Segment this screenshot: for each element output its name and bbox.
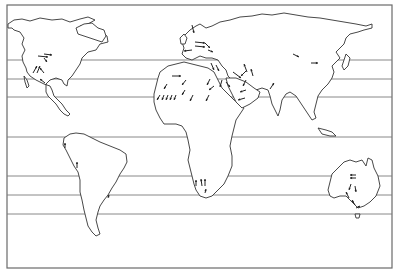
australia-landmass: [328, 158, 380, 208]
south-america-landmass: [63, 133, 127, 236]
baja-peninsula: [24, 76, 29, 88]
indonesia-islands: [318, 128, 336, 136]
arrow-icon: [216, 65, 219, 71]
arrow-icon: [211, 63, 214, 70]
japan-islands: [342, 54, 350, 70]
tasmania-island: [355, 214, 360, 218]
landmasses: [8, 13, 380, 236]
world-map: [0, 0, 400, 277]
